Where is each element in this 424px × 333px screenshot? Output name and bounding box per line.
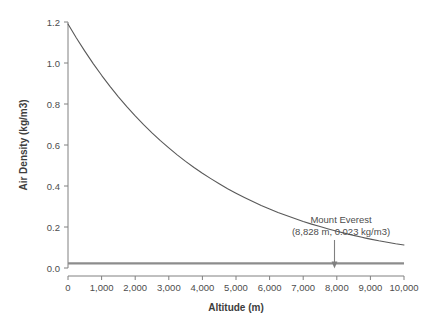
x-tick-label: 5,000: [224, 282, 248, 293]
y-tick-label: 1.0: [47, 58, 60, 69]
x-tick-label: 2,000: [123, 282, 147, 293]
x-axis-title: Altitude (m): [208, 302, 264, 313]
chart-canvas: 0.00.20.40.60.81.01.2 01,0002,0003,0004,…: [0, 0, 424, 333]
y-tick-label: 1.2: [47, 17, 60, 28]
x-tick-label: 10,000: [389, 282, 418, 293]
y-tick-label: 0.2: [47, 222, 60, 233]
annotation-line-2: (8,828 m, 0.023 kg/m3): [292, 226, 390, 237]
x-tick-label: 8,000: [325, 282, 349, 293]
y-axis-title: Air Density (kg/m3): [18, 99, 29, 190]
y-tick-label: 0.6: [47, 140, 60, 151]
x-tick-label: 6,000: [258, 282, 282, 293]
y-tick-label: 0.8: [47, 99, 60, 110]
annotation-line-1: Mount Everest: [310, 214, 372, 225]
air-density-chart: 0.00.20.40.60.81.01.2 01,0002,0003,0004,…: [0, 0, 424, 333]
y-tick-label: 0.4: [47, 181, 60, 192]
x-tick-label: 0: [65, 282, 70, 293]
y-tick-label: 0.0: [47, 263, 60, 274]
x-tick-label: 4,000: [191, 282, 215, 293]
x-tick-label: 7,000: [291, 282, 315, 293]
x-tick-label: 9,000: [359, 282, 383, 293]
x-tick-label: 3,000: [157, 282, 181, 293]
x-tick-label: 1,000: [90, 282, 114, 293]
